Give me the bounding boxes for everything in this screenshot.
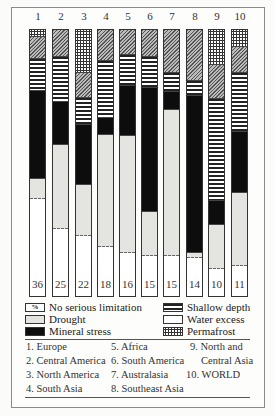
bar-segment-white: 18 xyxy=(98,247,113,296)
bar-number: 10 xyxy=(231,10,249,22)
bar-number: 9 xyxy=(208,10,226,22)
legend-label: Shallow depth xyxy=(187,301,250,313)
percent-label: 15 xyxy=(142,278,157,290)
bar-segment-stripes xyxy=(120,55,135,87)
legend-label: No serious limitation xyxy=(49,301,142,313)
bar-segment-drought xyxy=(120,136,135,253)
bar-number: 1 xyxy=(29,10,47,22)
stacked-bar: 14 xyxy=(186,29,203,297)
region-label: Central Asia xyxy=(201,355,253,366)
bar-number: 4 xyxy=(97,10,115,22)
bar-segment-black xyxy=(120,86,135,136)
bar-number: 3 xyxy=(75,10,93,22)
region-label: 3. North America xyxy=(26,369,99,380)
stacked-bar: 15 xyxy=(141,29,158,297)
stacked-bar: 10 xyxy=(208,29,225,297)
bar-segment-black xyxy=(30,91,45,178)
bar-segment-hatch xyxy=(76,73,91,99)
region-label: 9. North and xyxy=(190,341,243,352)
bar-segment-hatch xyxy=(30,37,45,59)
percent-label: 16 xyxy=(120,278,135,290)
bar-segment-stripes xyxy=(187,81,202,97)
bar-segment-white: 22 xyxy=(76,236,91,296)
bar-segment-white: 14 xyxy=(187,258,202,296)
bar-number: 6 xyxy=(141,10,159,22)
bar-segment-permafrost xyxy=(76,30,91,73)
bar-segment-permafrost xyxy=(209,30,224,65)
region-label: 8. Southeast Asia xyxy=(111,383,184,394)
permafrost-swatch-icon xyxy=(163,327,183,336)
region-label: 4. South Asia xyxy=(26,383,82,394)
region-label: 10. WORLD xyxy=(186,369,240,380)
bar-segment-stripes xyxy=(76,98,91,125)
bar-segment-drought xyxy=(164,110,179,256)
legend-label: Mineral stress xyxy=(49,325,111,337)
bar-segment-stripes xyxy=(53,57,68,102)
bar-segment-drought xyxy=(30,179,45,200)
region-label: 2. Central America xyxy=(26,355,106,366)
bar-segment-stripes xyxy=(142,57,157,88)
stacked-bar: 25 xyxy=(52,29,69,297)
legend-shallow-depth: Shallow depth xyxy=(163,301,250,313)
bar-segment-stripes xyxy=(209,99,224,201)
bar-segment-black xyxy=(164,92,179,110)
legend-label: Permafrost xyxy=(187,325,235,337)
region-label: 7. Australasia xyxy=(111,369,168,380)
percent-label: 11 xyxy=(232,278,247,290)
drought-swatch-icon xyxy=(25,315,45,324)
bar-segment-hatch xyxy=(164,30,179,73)
bar-segment-hatch xyxy=(187,30,202,81)
bar-segment-black xyxy=(53,102,68,146)
bar-segment-stripes xyxy=(232,73,247,133)
bar-segment-black xyxy=(98,118,113,135)
bar-segment-stripes xyxy=(30,59,45,92)
region-label: 5. Africa xyxy=(111,341,148,352)
bar-segment-hatch xyxy=(53,30,68,57)
legend-drought: Drought xyxy=(25,313,86,325)
stacked-bar: 18 xyxy=(97,29,114,297)
bar-segment-stripes xyxy=(164,73,179,93)
bar-segment-white: 10 xyxy=(209,269,224,296)
legend-mineral-stress: Mineral stress xyxy=(25,325,111,337)
stacked-bar: 15 xyxy=(163,29,180,297)
bar-number: 8 xyxy=(186,10,204,22)
bar-segment-white: 25 xyxy=(53,229,68,296)
bar-number: 2 xyxy=(52,10,70,22)
bar-segment-drought xyxy=(209,225,224,270)
legend-water-excess: Water excess xyxy=(163,313,244,325)
divider xyxy=(25,339,250,340)
bar-segment-hatch xyxy=(142,30,157,57)
bar-segment-drought xyxy=(53,145,68,229)
percent-label: 15 xyxy=(164,278,179,290)
percent-label: 36 xyxy=(30,278,45,290)
bar-segment-permafrost xyxy=(30,30,45,37)
percent-label: 18 xyxy=(98,278,113,290)
legend-label: Water excess xyxy=(187,313,244,325)
percent-label: 10 xyxy=(209,278,224,290)
bar-segment-hatch xyxy=(120,30,135,55)
region-label: 1. Europe xyxy=(26,341,67,352)
bar-segment-white: 15 xyxy=(142,256,157,296)
bar-segment-drought xyxy=(76,185,91,237)
bar-segment-stripes xyxy=(98,61,113,118)
bar-segment-drought xyxy=(142,212,157,257)
bar-segment-black xyxy=(142,88,157,212)
bar-segment-permafrost xyxy=(232,30,247,47)
bar-segment-white: 16 xyxy=(120,253,135,296)
bar-segment-hatch xyxy=(209,65,224,99)
bar-segment-white: 11 xyxy=(232,266,247,296)
percent-swatch-icon: % xyxy=(25,303,45,312)
legend-label: Drought xyxy=(49,313,86,325)
shallow-depth-swatch-icon xyxy=(163,303,183,312)
bar-segment-white: 15 xyxy=(164,256,179,296)
bar-segment-black xyxy=(76,125,91,185)
stacked-bar: 11 xyxy=(231,29,248,297)
stacked-bar: 16 xyxy=(119,29,136,297)
bar-segment-hatch xyxy=(232,47,247,73)
bar-segment-black xyxy=(209,201,224,225)
bar-segment-drought xyxy=(232,193,247,266)
stacked-bar: 22 xyxy=(75,29,92,297)
legend-no-serious-limitation: % No serious limitation xyxy=(25,301,142,313)
bar-segment-hatch xyxy=(98,30,113,61)
legend-permafrost: Permafrost xyxy=(163,325,235,337)
